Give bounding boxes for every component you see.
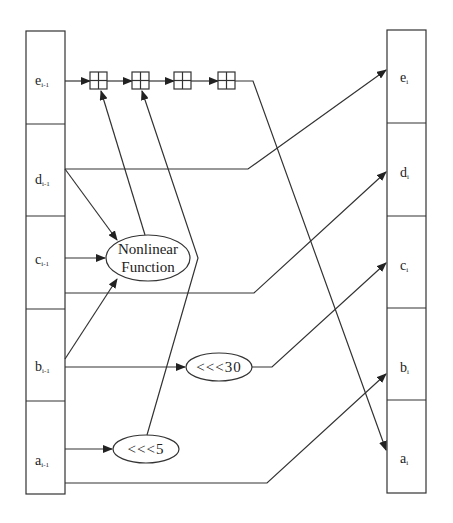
arrow-a-to-b-out bbox=[65, 374, 386, 483]
nonlinear-label-2: Function bbox=[121, 259, 175, 275]
nonlinear-function-node: Nonlinear Function bbox=[106, 235, 190, 281]
arrow-d-to-nonlinear bbox=[65, 169, 117, 240]
adder-icon bbox=[174, 72, 191, 89]
rotate-left-30-node: <<<30 bbox=[186, 353, 252, 381]
adder-icon bbox=[90, 72, 107, 89]
nonlinear-label-1: Nonlinear bbox=[118, 241, 178, 257]
arrow-nonlinear-to-adder1 bbox=[101, 91, 145, 235]
rotate-left-5-node: <<<5 bbox=[113, 435, 179, 463]
adder-icon bbox=[132, 72, 149, 89]
output-register-frame bbox=[387, 30, 426, 493]
rot5-label: <<<5 bbox=[128, 441, 165, 457]
arrow-rot30-to-c-out bbox=[252, 263, 386, 367]
rot30-label: <<<30 bbox=[196, 359, 241, 375]
sha1-round-diagram: ei-1 di-1 ci-1 bi-1 ai-1 ei di ci bi ai bbox=[0, 0, 453, 523]
arrow-c-to-d-out bbox=[65, 172, 386, 293]
adder-icon bbox=[218, 72, 235, 89]
output-register-stack: ei di ci bi ai bbox=[387, 30, 426, 493]
input-register-stack: ei-1 di-1 ci-1 bi-1 ai-1 bbox=[26, 31, 65, 494]
arrow-b-to-nonlinear bbox=[65, 279, 117, 359]
